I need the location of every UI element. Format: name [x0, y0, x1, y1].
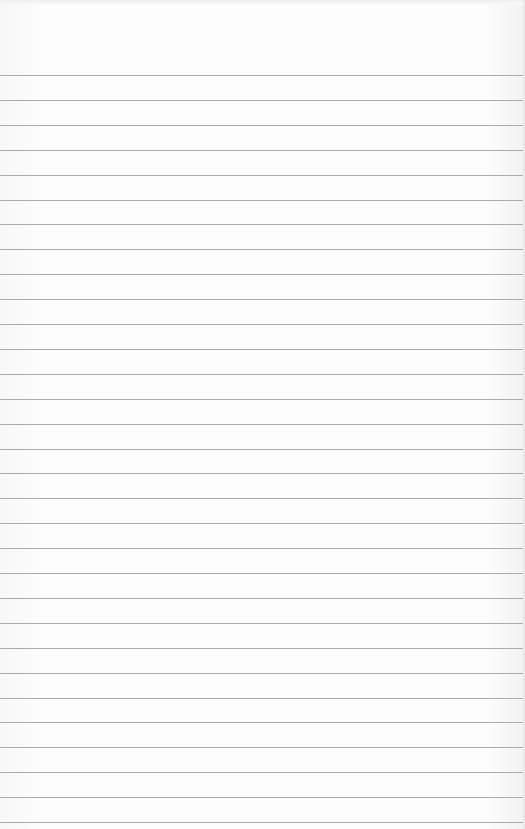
ruled-line	[0, 349, 523, 350]
ruled-line	[0, 498, 523, 499]
ruled-line	[0, 772, 523, 773]
ruled-line	[0, 399, 523, 400]
ruled-line	[0, 200, 523, 201]
ruled-line	[0, 822, 523, 823]
ruled-line	[0, 374, 523, 375]
ruled-line	[0, 299, 523, 300]
perforated-top-edge	[0, 0, 525, 6]
ruled-line	[0, 150, 523, 151]
ruled-line	[0, 698, 523, 699]
ruled-line	[0, 648, 523, 649]
ruled-line	[0, 175, 523, 176]
ruled-line	[0, 473, 523, 474]
ruled-line	[0, 722, 523, 723]
ruled-line	[0, 548, 523, 549]
notepad-page	[0, 0, 525, 829]
ruled-line	[0, 449, 523, 450]
ruled-line	[0, 797, 523, 798]
ruled-line	[0, 75, 523, 76]
ruled-line	[0, 598, 523, 599]
ruled-line	[0, 573, 523, 574]
ruled-line	[0, 623, 523, 624]
ruled-line	[0, 324, 523, 325]
ruled-line	[0, 673, 523, 674]
ruled-line	[0, 249, 523, 250]
ruled-line	[0, 747, 523, 748]
ruled-line	[0, 424, 523, 425]
ruled-line	[0, 100, 523, 101]
ruled-line	[0, 274, 523, 275]
ruled-line	[0, 125, 523, 126]
ruled-line	[0, 224, 523, 225]
ruled-line	[0, 523, 523, 524]
